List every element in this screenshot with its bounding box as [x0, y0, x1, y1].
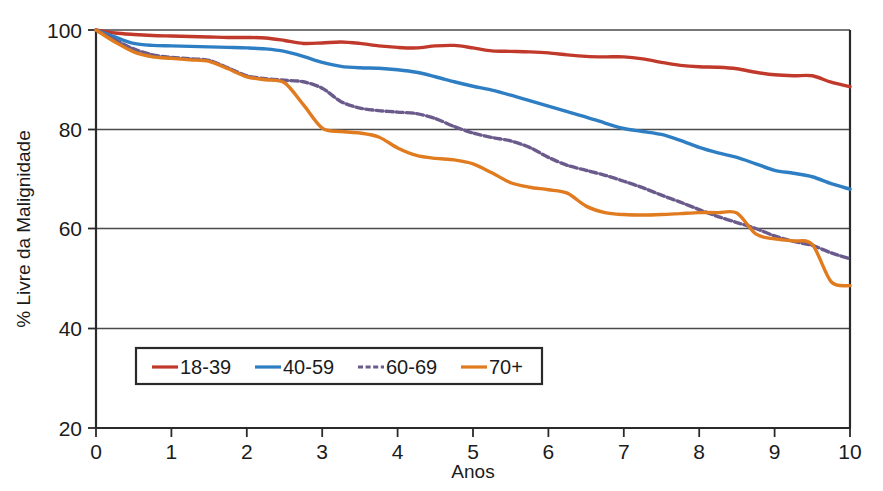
x-tick-label-10: 10 — [838, 440, 861, 463]
x-tick-label-3: 3 — [316, 440, 328, 463]
x-axis-title: Anos — [451, 461, 494, 482]
x-axis-tick-labels: 012345678910 — [90, 440, 862, 463]
y-tick-label-40: 40 — [59, 317, 82, 340]
legend-label-18-39: 18-39 — [180, 356, 231, 378]
chart-container: 100 80 60 40 20 012345678910 % Livre da … — [0, 0, 883, 491]
y-axis-tick-labels: 100 80 60 40 20 — [47, 19, 82, 440]
y-tick-label-80: 80 — [59, 118, 82, 141]
survival-curve-chart: 100 80 60 40 20 012345678910 % Livre da … — [0, 0, 883, 491]
y-axis-title: % Livre da Malignidade — [13, 130, 34, 328]
x-tick-label-4: 4 — [392, 440, 404, 463]
y-tick-label-20: 20 — [59, 417, 82, 440]
y-axis-ticks — [88, 30, 96, 428]
x-tick-label-5: 5 — [467, 440, 479, 463]
y-tick-label-60: 60 — [59, 217, 82, 240]
y-tick-label-100: 100 — [47, 19, 82, 42]
legend: 18-3940-5960-6970+ — [136, 348, 542, 384]
x-tick-label-0: 0 — [90, 440, 102, 463]
x-tick-label-9: 9 — [769, 440, 781, 463]
legend-label-40-59: 40-59 — [283, 356, 334, 378]
x-tick-label-2: 2 — [241, 440, 253, 463]
x-tick-label-7: 7 — [618, 440, 630, 463]
x-tick-label-8: 8 — [693, 440, 705, 463]
legend-label-60-69: 60-69 — [386, 356, 437, 378]
legend-label-70plus: 70+ — [489, 356, 523, 378]
x-axis-ticks — [96, 428, 850, 437]
x-tick-label-6: 6 — [543, 440, 555, 463]
x-tick-label-1: 1 — [166, 440, 178, 463]
